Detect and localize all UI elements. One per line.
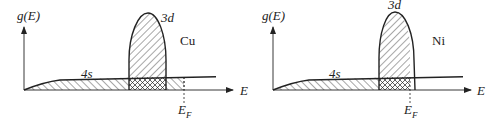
y-axis-label: g(E) xyxy=(17,8,40,23)
band-overlap-region xyxy=(379,77,410,90)
band-3d-label: 3d xyxy=(387,0,402,12)
band-4s-filled-region-above-3d xyxy=(166,77,184,90)
fermi-level-label: EF xyxy=(403,102,418,120)
band-4s-label: 4s xyxy=(329,66,341,81)
y-axis-label: g(E) xyxy=(262,8,285,23)
metal-label: Ni xyxy=(432,33,445,48)
x-axis-label: E xyxy=(239,83,248,98)
density-of-states-diagram: g(E) E 4s 3d Cu EF g(E) E 4s 3d Ni EF xyxy=(0,0,501,127)
panel-ni: g(E) E 4s 3d Ni EF xyxy=(262,0,485,120)
fermi-level-label: EF xyxy=(177,102,192,120)
metal-label: Cu xyxy=(180,33,196,48)
panel-cu: g(E) E 4s 3d Cu EF xyxy=(17,8,248,120)
x-axis-label: E xyxy=(476,83,485,98)
band-4s-label: 4s xyxy=(81,66,93,81)
band-3d-label: 3d xyxy=(160,10,175,25)
